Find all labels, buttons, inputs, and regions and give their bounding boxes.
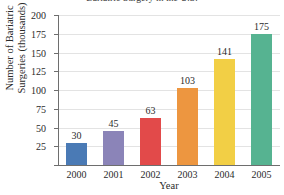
bar-value-label: 63 [146,105,156,116]
bar-value-label: 45 [109,118,119,129]
x-axis-title: Year [58,180,280,191]
bar: 63 [140,118,161,165]
y-tick-label: 25 [36,141,46,152]
y-tick-label: 125 [31,66,46,77]
x-tick-label: 2004 [215,169,235,180]
x-tick-label: 2003 [178,169,198,180]
y-axis-title-line-1: Number of Bariatric [4,5,17,90]
bar: 141 [214,59,235,165]
bar: 30 [66,143,87,166]
plot-area: 255075100125150175200 304563103141175 20… [58,15,280,165]
bar-value-label: 175 [254,21,269,32]
bar-value-label: 141 [217,46,232,57]
y-axis-title-line-2: Surgeries (thousands) [16,2,29,93]
bar-value-label: 103 [180,75,195,86]
bar: 45 [103,131,124,165]
x-axis-line [54,165,280,166]
y-tick-label: 100 [31,85,46,96]
x-tick-label: 2005 [252,169,272,180]
chart-title: Bariatric Surgery in the U.S. [0,0,284,4]
y-tick-label: 175 [31,28,46,39]
y-axis-title: Number of Bariatric Surgeries (thousands… [1,0,31,114]
x-tick-label: 2001 [104,169,124,180]
bar-value-label: 30 [72,130,82,141]
y-tick-label: 50 [36,122,46,133]
bar: 175 [251,34,272,165]
y-tick-label: 75 [36,103,46,114]
bar-chart: Bariatric Surgery in the U.S. Number of … [0,0,284,195]
y-tick-label: 150 [31,47,46,58]
y-tick-label: 200 [31,10,46,21]
bars-group: 304563103141175 [58,15,280,165]
bar: 103 [177,88,198,165]
x-tick-label: 2000 [67,169,87,180]
x-tick-label: 2002 [141,169,161,180]
